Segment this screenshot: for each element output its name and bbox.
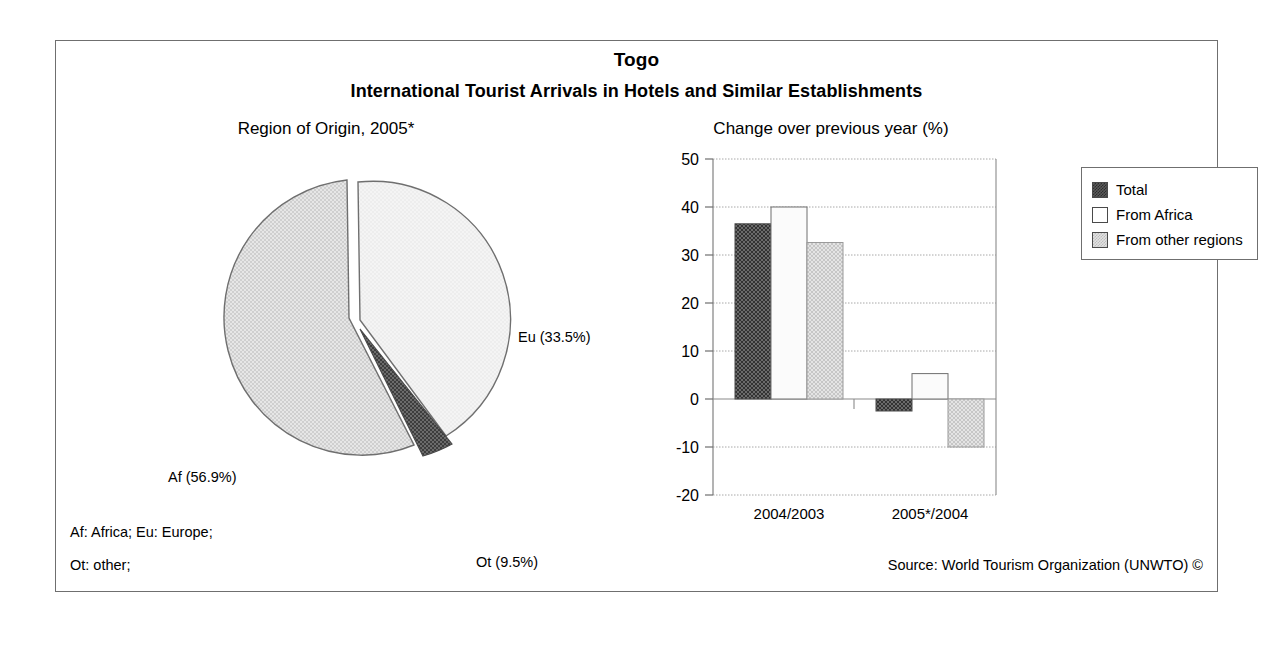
pie-chart-title: Region of Origin, 2005*	[56, 119, 596, 139]
legend-item-from-other-regions[interactable]: From other regions	[1092, 231, 1243, 248]
y-tick-label: 50	[681, 151, 699, 168]
source-attribution: Source: World Tourism Organization (UNWT…	[888, 557, 1203, 573]
legend-item-total[interactable]: Total	[1092, 181, 1243, 198]
y-tick-label: -10	[676, 439, 699, 456]
y-tick-label: 0	[690, 391, 699, 408]
pie-label-af: Af (56.9%)	[168, 469, 237, 485]
figure-root: Togo International Tourist Arrivals in H…	[0, 0, 1270, 647]
bar-chart-graphic: 50 40 30 20 10 0 -10 -20	[631, 151, 1091, 541]
footnote-line-2: Ot: other;	[70, 557, 130, 573]
figure-subtitle: International Tourist Arrivals in Hotels…	[56, 81, 1217, 102]
bar-from-other-2004	[807, 243, 843, 400]
legend-label: Total	[1116, 181, 1148, 198]
legend-swatch-icon	[1092, 182, 1108, 198]
bar-chart-legend: Total From Africa From other regions	[1081, 167, 1258, 260]
figure-frame: Togo International Tourist Arrivals in H…	[55, 40, 1218, 592]
legend-label: From Africa	[1116, 206, 1193, 223]
bar-chart-title: Change over previous year (%)	[631, 119, 1031, 139]
legend-swatch-icon	[1092, 232, 1108, 248]
footnote-line-1: Af: Africa; Eu: Europe;	[70, 524, 213, 540]
pie-svg	[146, 149, 566, 489]
figure-title: Togo	[56, 49, 1217, 71]
bar-chart-panel: Change over previous year (%)	[631, 119, 1219, 549]
bar-from-africa-2005	[912, 374, 948, 399]
pie-label-ot: Ot (9.5%)	[476, 554, 538, 570]
bar-svg: 50 40 30 20 10 0 -10 -20	[631, 151, 1091, 541]
pie-label-eu: Eu (33.5%)	[518, 329, 591, 345]
y-tick-label: 10	[681, 343, 699, 360]
pie-chart-panel: Region of Origin, 2005*	[56, 119, 656, 519]
y-axis-ticks	[705, 159, 713, 495]
pie-chart-graphic: Eu (33.5%) Af (56.9%) Ot (9.5%)	[146, 149, 566, 489]
y-tick-label: 20	[681, 295, 699, 312]
bar-from-other-2005	[948, 399, 984, 447]
y-tick-label: -20	[676, 487, 699, 504]
legend-label: From other regions	[1116, 231, 1243, 248]
bar-from-africa-2004	[771, 207, 807, 399]
bar-total-2005	[876, 399, 912, 411]
legend-swatch-icon	[1092, 207, 1108, 223]
x-tick-label: 2004/2003	[754, 505, 825, 522]
y-tick-label: 40	[681, 199, 699, 216]
legend-item-from-africa[interactable]: From Africa	[1092, 206, 1243, 223]
y-tick-label: 30	[681, 247, 699, 264]
x-tick-label: 2005*/2004	[892, 505, 969, 522]
bar-total-2004	[735, 224, 771, 399]
